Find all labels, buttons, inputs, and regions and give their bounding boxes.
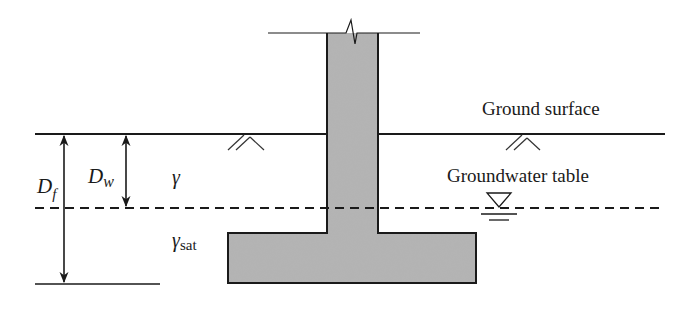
- dw-label-sub: w: [103, 173, 114, 190]
- ground-surface-label: Ground surface: [482, 98, 600, 119]
- df-label: Df: [36, 174, 58, 202]
- water-table-symbol-icon: [481, 193, 517, 220]
- df-label-main: D: [36, 174, 52, 198]
- df-label-sub: f: [52, 186, 58, 202]
- groundwater-table-label: Groundwater table: [447, 165, 589, 186]
- dw-label: Dw: [87, 164, 114, 190]
- ground-hatch-icon-right: [506, 135, 540, 150]
- saturated-unit-weight-label: γsat: [172, 229, 197, 253]
- foundation-diagram: Ground surface Groundwater table Df Dw γ…: [0, 0, 693, 309]
- dw-label-main: D: [87, 164, 103, 188]
- sat-unit-weight-sub: sat: [180, 237, 197, 253]
- concrete-foundation: [228, 33, 476, 283]
- foundation-fill: [228, 33, 476, 283]
- ground-hatch-icon-left: [228, 135, 264, 150]
- unit-weight-label: γ: [172, 166, 181, 189]
